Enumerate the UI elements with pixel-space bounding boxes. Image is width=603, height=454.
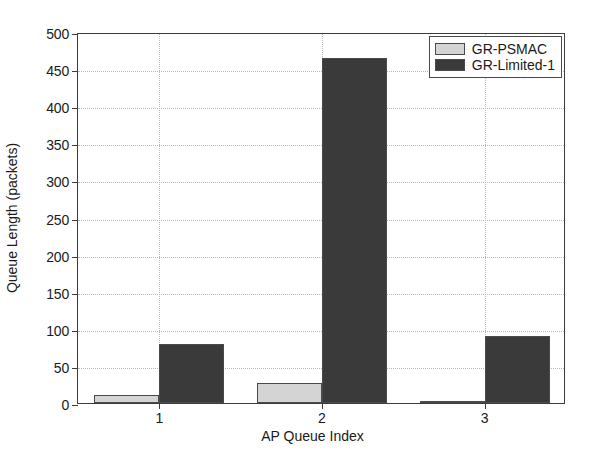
x-axis-title-text: AP Queue Index — [261, 428, 363, 444]
bar-gr-psmac-2 — [257, 383, 322, 403]
gridline-y-150 — [78, 294, 564, 295]
y-tick-label-0: 0 — [61, 397, 69, 413]
y-tick-50 — [72, 368, 78, 369]
y-tick-200 — [72, 257, 78, 258]
legend-item-1: GR-Limited-1 — [435, 57, 555, 73]
y-tick-400 — [72, 108, 78, 109]
gridline-y-300 — [78, 182, 564, 183]
x-axis-title: AP Queue Index — [0, 428, 603, 444]
x-tick-2 — [322, 403, 323, 409]
gridline-y-200 — [78, 257, 564, 258]
bar-gr-limited-1-1 — [159, 344, 224, 403]
y-tick-label-400: 400 — [46, 100, 69, 116]
y-tick-300 — [72, 182, 78, 183]
legend-label-gr-limited-1: GR-Limited-1 — [472, 58, 555, 72]
y-tick-150 — [72, 294, 78, 295]
y-tick-500 — [72, 34, 78, 35]
y-tick-label-350: 350 — [46, 137, 69, 153]
y-tick-250 — [72, 220, 78, 221]
y-axis-title: Queue Length (packets) — [4, 143, 20, 293]
y-tick-label-50: 50 — [54, 360, 69, 376]
legend-swatch-gr-psmac — [435, 43, 465, 55]
y-tick-label-300: 300 — [46, 174, 69, 190]
gridline-y-400 — [78, 108, 564, 109]
y-tick-450 — [72, 71, 78, 72]
x-tick-label-3: 3 — [481, 410, 489, 426]
x-tick-1 — [159, 403, 160, 409]
x-tick-label-2: 2 — [318, 410, 326, 426]
gridline-y-100 — [78, 331, 564, 332]
y-tick-0 — [72, 405, 78, 406]
y-tick-label-500: 500 — [46, 26, 69, 42]
y-tick-label-250: 250 — [46, 212, 69, 228]
y-tick-label-150: 150 — [46, 286, 69, 302]
plot-area: 050100150200250300350400450500 123 GR-PS… — [77, 33, 565, 404]
bar-gr-limited-1-3 — [485, 336, 550, 403]
bar-gr-psmac-3 — [420, 401, 485, 403]
y-tick-label-450: 450 — [46, 63, 69, 79]
bar-gr-psmac-1 — [94, 395, 159, 403]
x-tick-label-1: 1 — [155, 410, 163, 426]
x-tick-3 — [485, 403, 486, 409]
chart-legend: GR-PSMAC GR-Limited-1 — [429, 36, 562, 78]
y-tick-label-200: 200 — [46, 249, 69, 265]
gridline-y-250 — [78, 220, 564, 221]
y-tick-350 — [72, 145, 78, 146]
y-tick-100 — [72, 331, 78, 332]
bar-gr-limited-1-2 — [322, 58, 387, 403]
legend-item-0: GR-PSMAC — [435, 41, 555, 57]
chart-figure: 050100150200250300350400450500 123 GR-PS… — [0, 0, 603, 454]
legend-label-gr-psmac: GR-PSMAC — [472, 42, 547, 56]
legend-swatch-gr-limited-1 — [435, 59, 465, 71]
y-tick-label-100: 100 — [46, 323, 69, 339]
gridline-y-350 — [78, 145, 564, 146]
